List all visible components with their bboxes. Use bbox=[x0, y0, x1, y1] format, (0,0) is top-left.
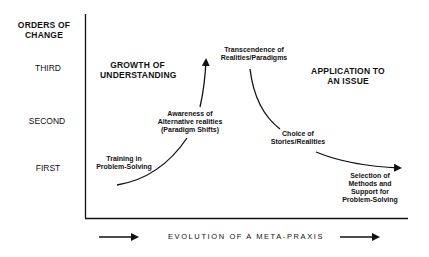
x-axis-caption: EVOLUTION OF A META-PRAXIS bbox=[166, 233, 326, 242]
node-awareness-line1: Awareness of bbox=[154, 110, 226, 118]
node-training: Training in Problem-Solving bbox=[94, 155, 154, 171]
node-selection: Selection of Methods and Support for Pro… bbox=[337, 172, 403, 204]
y-axis-title-line2: CHANGE bbox=[14, 31, 74, 41]
node-choice: Choice of Stories/Realities bbox=[266, 130, 330, 146]
node-awareness-line3: (Paradigm Shifts) bbox=[154, 126, 226, 134]
application-curve-upper bbox=[250, 69, 280, 129]
node-choice-line1: Choice of bbox=[266, 130, 330, 138]
region-growth-of-understanding: GROWTH OF UNDERSTANDING bbox=[100, 61, 175, 81]
level-second: SECOND bbox=[22, 117, 72, 127]
y-axis-title: ORDERS OF CHANGE bbox=[14, 21, 74, 41]
level-third: THIRD bbox=[30, 64, 66, 74]
node-transcendence: Transcendence of Realities/Paradigms bbox=[214, 46, 294, 62]
node-transcendence-line2: Realities/Paradigms bbox=[214, 54, 294, 62]
node-selection-line2: Methods and bbox=[337, 180, 403, 188]
node-selection-line1: Selection of bbox=[337, 172, 403, 180]
node-training-line1: Training in bbox=[94, 155, 154, 163]
node-awareness: Awareness of Alternative realities (Para… bbox=[154, 110, 226, 134]
level-first: FIRST bbox=[30, 164, 66, 174]
node-choice-line2: Stories/Realities bbox=[266, 138, 330, 146]
growth-curve-upper bbox=[200, 60, 206, 107]
node-awareness-line2: Alternative realities bbox=[154, 118, 226, 126]
node-selection-line4: Problem-Solving bbox=[337, 196, 403, 204]
application-curve-lower bbox=[316, 152, 400, 168]
region-application-to-an-issue: APPLICATION TO AN ISSUE bbox=[308, 67, 388, 87]
node-transcendence-line1: Transcendence of bbox=[214, 46, 294, 54]
node-selection-line3: Support for bbox=[337, 188, 403, 196]
region-right-line2: AN ISSUE bbox=[308, 77, 388, 87]
region-left-line2: UNDERSTANDING bbox=[100, 71, 175, 81]
node-training-line2: Problem-Solving bbox=[94, 163, 154, 171]
